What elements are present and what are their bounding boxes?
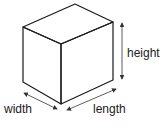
- top-face: [23, 4, 113, 44]
- right-face: [61, 22, 113, 104]
- height-label: height: [127, 46, 160, 60]
- width-label: width: [3, 102, 32, 116]
- length-label: length: [93, 102, 126, 116]
- left-face: [23, 27, 61, 104]
- box-diagram: height width length: [0, 0, 168, 130]
- rectangular-prism: [23, 4, 113, 104]
